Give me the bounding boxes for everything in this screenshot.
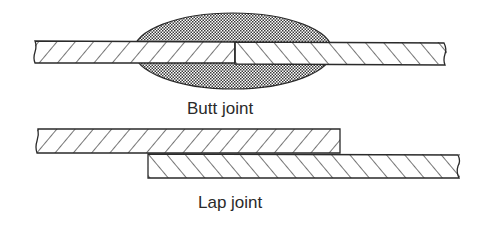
butt-left-plate — [34, 41, 235, 63]
lap-joint-label: Lap joint — [198, 194, 262, 211]
welding-joints-diagram: Butt joint Lap joint — [0, 0, 479, 226]
lap-upper-plate — [36, 129, 340, 153]
lap-lower-plate — [148, 154, 460, 178]
butt-right-plate — [235, 42, 447, 65]
butt-joint-label: Butt joint — [187, 100, 253, 117]
